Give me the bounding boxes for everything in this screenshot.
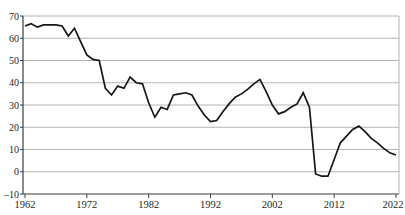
y-axis-label-30: 30 (9, 100, 19, 111)
x-axis-label-2022: 2022 (383, 199, 404, 210)
y-axis-label-20: 20 (9, 122, 19, 133)
y-axis-label-40: 40 (9, 77, 19, 88)
y-axis-label-10: 10 (9, 144, 19, 155)
chart-figure: –100102030405060701962197219821992200220… (0, 0, 405, 215)
x-axis-label-1982: 1982 (138, 199, 159, 210)
x-axis-label-1992: 1992 (200, 199, 221, 210)
x-axis-label-1962: 1962 (15, 199, 36, 210)
chart-background (0, 0, 405, 215)
y-axis-label--10: –10 (3, 189, 19, 200)
y-axis-label-60: 60 (9, 33, 19, 44)
y-axis-label-70: 70 (9, 11, 19, 22)
x-axis-label-2012: 2012 (324, 199, 345, 210)
y-axis-label-0: 0 (14, 166, 19, 177)
line-chart: –100102030405060701962197219821992200220… (0, 0, 405, 215)
y-axis-label-50: 50 (9, 55, 19, 66)
x-axis-label-2002: 2002 (262, 199, 283, 210)
x-axis-label-1972: 1972 (76, 199, 97, 210)
